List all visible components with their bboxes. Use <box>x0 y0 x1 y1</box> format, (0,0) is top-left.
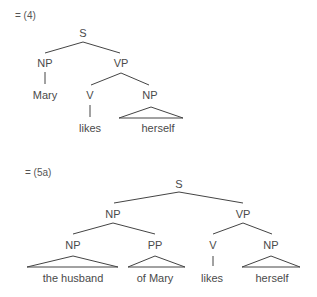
node-vp: VP <box>236 208 251 220</box>
leaf-mary: Mary <box>33 89 57 101</box>
example-label-4: = (4) <box>15 10 36 22</box>
leaf-of-mary: of Mary <box>137 272 174 284</box>
node-v: V <box>86 89 93 101</box>
example-label-5a: = (5a) <box>25 167 51 179</box>
leaf-herself: herself <box>255 272 288 284</box>
node-np-object: NP <box>263 239 278 251</box>
leaf-likes: likes <box>79 122 101 134</box>
node-s: S <box>175 178 182 190</box>
leaf-likes: likes <box>201 272 223 284</box>
node-pp: PP <box>148 239 163 251</box>
node-np: NP <box>37 57 52 69</box>
leaf-the-husband: the husband <box>43 272 104 284</box>
node-v: V <box>209 239 216 251</box>
node-vp: VP <box>114 57 129 69</box>
node-np-inner: NP <box>65 239 80 251</box>
leaf-herself: herself <box>141 122 174 134</box>
node-np-object: NP <box>142 89 157 101</box>
node-s: S <box>79 27 86 39</box>
tree-lines <box>0 0 317 297</box>
node-np: NP <box>105 208 120 220</box>
